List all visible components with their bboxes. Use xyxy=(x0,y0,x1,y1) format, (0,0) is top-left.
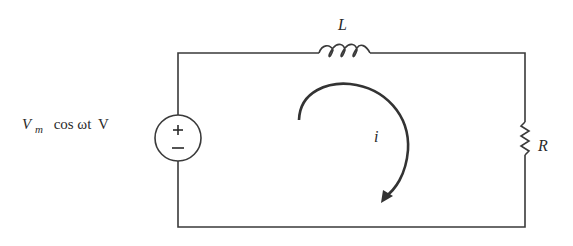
wire-right-bottom xyxy=(178,155,525,227)
source-label: V m cos ωt V xyxy=(22,116,109,136)
current-label: i xyxy=(374,128,378,145)
inductor-coil xyxy=(319,44,370,56)
resistor-zigzag xyxy=(521,122,529,155)
circuit-diagram: L R i V m cos ωt V xyxy=(0,0,573,246)
inductor-label: L xyxy=(337,16,347,33)
wire-top-right xyxy=(370,53,525,122)
wire-left-top xyxy=(178,53,319,115)
current-arrow xyxy=(299,84,408,203)
resistor-label: R xyxy=(537,137,548,154)
voltage-source-circle xyxy=(155,115,201,161)
